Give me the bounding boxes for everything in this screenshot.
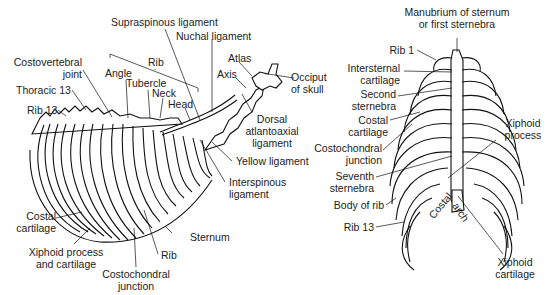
label-line: sternebra [352, 100, 396, 112]
lateral-ribs [38, 124, 212, 240]
label-costochondral-junction-left: Costochondral junction [98, 268, 174, 292]
label-xiphoid-process-right: Xiphoid process [496, 117, 550, 141]
label-line: Intersternal [347, 62, 400, 74]
label-line: Costovertebral [14, 56, 82, 68]
label-interspinous-ligament: Interspinous ligament [229, 176, 286, 200]
occiput [252, 64, 282, 90]
label-seventh-sternebra: Seventh sternebra [320, 170, 374, 194]
label-costovertebral-joint: Costovertebral joint [12, 56, 82, 80]
label-line: cartilage [360, 74, 400, 86]
label-line: Interspinous [229, 176, 286, 188]
label-body-of-rib: Body of rib [310, 199, 384, 211]
label-rib-13-right: Rib 13 [330, 221, 374, 233]
label-costochondral-junction-right: Costochondral junction [300, 142, 382, 166]
label-atlas: Atlas [228, 52, 251, 64]
label-intersternal-cartilage: Intersternal cartilage [340, 62, 400, 86]
label-rib-group: Rib [148, 56, 164, 68]
label-line: cartilage [16, 222, 56, 234]
sternum-column [451, 50, 463, 210]
label-line: process [505, 129, 542, 141]
label-line: cartilage [495, 268, 535, 280]
label-rib-1: Rib 1 [370, 44, 414, 56]
label-line: junction [118, 280, 154, 292]
label-line: Second [360, 88, 396, 100]
label-line: ligament [229, 188, 269, 200]
label-line: Manubrium of sternum [404, 6, 509, 18]
label-yellow-ligament: Yellow ligament [236, 155, 309, 167]
label-axis: Axis [217, 68, 237, 80]
label-line: cartilage [348, 126, 388, 138]
label-second-sternebra: Second sternebra [340, 88, 396, 112]
label-line: Occiput [291, 71, 327, 83]
label-rib: Rib [161, 249, 177, 261]
label-line: Xiphoid [505, 117, 540, 129]
label-dorsal-atlantoaxial-ligament: Dorsal atlantoaxial ligament [240, 113, 304, 149]
label-occiput-of-skull: Occiput of skull [291, 71, 327, 95]
label-xiphoid-cartilage: Xiphoid cartilage [488, 256, 542, 280]
label-line: of skull [291, 83, 324, 95]
label-line: or first sternebra [419, 18, 495, 30]
label-line: Xiphoid [497, 256, 532, 268]
label-head: Head [168, 98, 193, 110]
label-costal-cartilage-left: Costal cartilage [10, 210, 56, 234]
label-rib-13-left: Rib 13 [27, 104, 57, 116]
label-sternum: Sternum [190, 231, 230, 243]
label-line: Costochondral [314, 142, 382, 154]
label-line: ligament [252, 137, 292, 149]
label-line: Xiphoid process [29, 246, 104, 258]
label-line: Costal [358, 114, 388, 126]
label-line: atlantoaxial [245, 125, 298, 137]
label-line: Costochondral [102, 268, 170, 280]
label-supraspinous-ligament: Supraspinous ligament [111, 16, 218, 28]
label-costal-cartilage-right: Costal cartilage [340, 114, 388, 138]
ventral-thorax-drawing [390, 50, 524, 270]
label-xiphoid-process-and-cartilage: Xiphoid process and cartilage [24, 246, 108, 270]
label-manubrium: Manubrium of sternum or first sternebra [398, 6, 516, 30]
label-line: Costal [26, 210, 56, 222]
label-line: sternebra [330, 182, 374, 194]
label-line: joint [63, 68, 82, 80]
label-line: and cartilage [36, 258, 96, 270]
label-line: junction [346, 154, 382, 166]
label-thoracic-13: Thoracic 13 [16, 84, 71, 96]
label-line: Seventh [335, 170, 374, 182]
label-nuchal-ligament: Nuchal ligament [176, 30, 251, 42]
label-line: Dorsal [257, 113, 287, 125]
ventral-ribs-right [462, 58, 524, 270]
